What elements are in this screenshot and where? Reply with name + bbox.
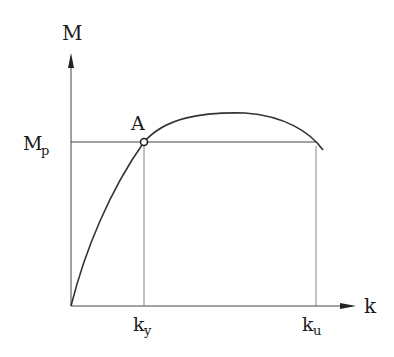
y-axis-label: M	[62, 21, 82, 45]
y-axis-arrow-icon	[68, 53, 74, 68]
mp-label: M	[23, 132, 42, 154]
ku-subscript: u	[313, 323, 321, 338]
ky-subscript: y	[143, 323, 152, 338]
point-a-label: A	[130, 112, 145, 134]
moment-curvature-diagram: M k A M p k y k u	[0, 0, 394, 357]
x-axis-arrow-icon	[340, 303, 356, 309]
point-a-marker	[141, 139, 148, 146]
x-axis-label: k	[364, 294, 377, 318]
mp-subscript: p	[41, 143, 49, 158]
